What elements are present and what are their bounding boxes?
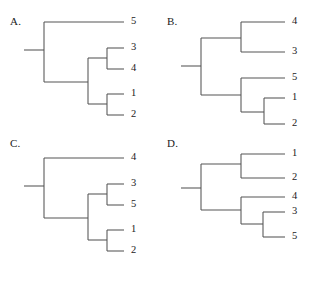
tree-b-tip-label-0: 4 — [292, 15, 298, 26]
tree-a-tip-label-4: 2 — [131, 108, 136, 119]
tree-c-tip-label-2: 5 — [131, 198, 136, 209]
tree-d-tip-label-1: 2 — [292, 171, 297, 182]
panel-c: C. 4 3 5 1 2 — [0, 140, 161, 280]
panel-b: B. 4 3 5 1 2 — [161, 0, 322, 140]
panel-d: D. 1 2 4 3 5 — [161, 140, 322, 280]
tree-c-tip-label-0: 4 — [131, 151, 137, 162]
tree-b-tip-label-3: 1 — [292, 91, 297, 102]
tree-b-diagram: 4 3 5 1 2 — [161, 0, 322, 140]
tree-c-tip-label-3: 1 — [131, 223, 136, 234]
phylogenetic-tree-figure: A. 5 3 4 1 2 — [0, 0, 322, 281]
tree-b-tip-label-2: 5 — [292, 71, 297, 82]
tree-a-tip-label-1: 3 — [131, 41, 136, 52]
tree-d-tip-label-0: 1 — [292, 147, 297, 158]
panel-a: A. 5 3 4 1 2 — [0, 0, 161, 140]
tree-b-tip-label-4: 2 — [292, 117, 297, 128]
tree-c-tip-label-4: 2 — [131, 244, 136, 255]
tree-a-tip-label-3: 1 — [131, 87, 136, 98]
tree-a-tip-label-0: 5 — [131, 15, 136, 26]
tree-c-tip-label-1: 3 — [131, 177, 136, 188]
tree-d-tip-label-2: 4 — [292, 190, 298, 201]
tree-d-tip-label-3: 3 — [292, 205, 297, 216]
tree-c-diagram: 4 3 5 1 2 — [0, 140, 161, 280]
tree-d-tip-label-4: 5 — [292, 230, 297, 241]
tree-a-diagram: 5 3 4 1 2 — [0, 0, 161, 140]
tree-d-diagram: 1 2 4 3 5 — [161, 140, 322, 280]
tree-a-tip-label-2: 4 — [131, 62, 137, 73]
tree-b-tip-label-1: 3 — [292, 45, 297, 56]
